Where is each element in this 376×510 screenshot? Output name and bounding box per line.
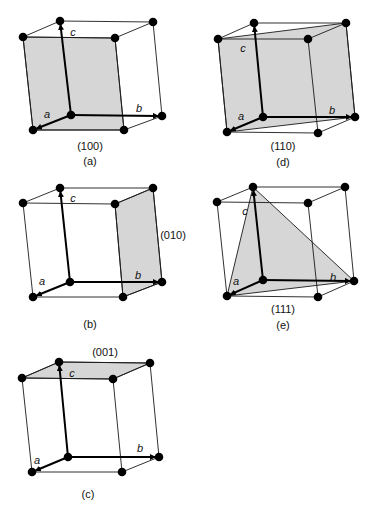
axis-label-a: a (39, 275, 45, 287)
plane-label: (001) (92, 346, 118, 358)
cube-edge (308, 187, 345, 203)
cube-edge (115, 22, 153, 38)
axis-b-arrow (71, 115, 158, 116)
atom-icon (213, 198, 222, 207)
panel-caption: (e) (276, 319, 289, 331)
panel-e: abc(111)(e) (213, 183, 359, 331)
atom-icon (223, 292, 232, 301)
plane-label: (111) (271, 303, 295, 315)
axis-c-arrow (60, 192, 70, 282)
atom-icon (111, 34, 120, 43)
atom-icon (249, 183, 258, 192)
panel-a: abc(100)(a) (19, 17, 167, 167)
axis-label-a: a (238, 110, 244, 122)
cube-edge (124, 116, 162, 130)
axis-label-b: b (330, 271, 336, 283)
atom-icon (56, 184, 65, 193)
atom-icon (56, 17, 65, 26)
atom-icon (158, 112, 167, 121)
atom-icon (149, 18, 158, 27)
cube-edge (23, 203, 33, 297)
cube-edge (217, 187, 253, 202)
axis-label-b: b (135, 269, 141, 281)
atom-icon (341, 183, 350, 192)
atom-icon (304, 199, 313, 208)
panel-caption: (a) (83, 155, 96, 167)
cube-edge (23, 21, 60, 37)
atom-icon (18, 374, 27, 383)
axis-label-c: c (70, 192, 76, 204)
cube-edge (345, 187, 354, 281)
cube-edge (23, 203, 115, 204)
atom-icon (304, 35, 313, 44)
atom-icon (118, 468, 127, 477)
atom-icon (149, 184, 158, 193)
plane-c-shading (22, 362, 150, 379)
atom-icon (214, 35, 223, 44)
panel-caption: (d) (276, 156, 289, 168)
plane-label: (010) (160, 229, 186, 241)
atom-icon (314, 293, 323, 302)
plane-label: (110) (271, 140, 296, 152)
atom-icon (29, 293, 38, 302)
cube-edge (60, 21, 153, 22)
panel-caption: (c) (82, 488, 95, 500)
axis-label-a: a (44, 108, 50, 120)
axis-label-c: c (70, 26, 76, 38)
atom-icon (109, 375, 118, 384)
axis-label-a: a (34, 454, 40, 466)
cube-edge (217, 202, 308, 203)
plane-label: (100) (77, 140, 103, 152)
atom-icon (120, 126, 129, 135)
atom-icon (250, 19, 259, 28)
atom-icon (146, 359, 155, 368)
atom-icon (119, 293, 128, 302)
axis-b-arrow (263, 280, 350, 281)
atom-icon (351, 113, 360, 122)
cube-edge (113, 379, 122, 472)
panel-d: abc(110)(d) (214, 19, 360, 168)
panel-c: abc(001)(c) (18, 346, 164, 500)
axis-label-a: a (233, 275, 239, 287)
cube-edge (23, 188, 60, 203)
panel-caption: (b) (83, 318, 96, 330)
atom-icon (64, 453, 73, 462)
axis-label-c: c (242, 205, 248, 217)
cube-edge (22, 378, 32, 472)
atom-icon (55, 358, 64, 367)
atom-icon (259, 276, 268, 285)
axis-label-b: b (137, 442, 143, 454)
atom-icon (155, 453, 164, 462)
cube-edge (227, 132, 318, 133)
atom-icon (350, 277, 359, 286)
cube-edge (150, 363, 159, 457)
atom-icon (223, 128, 232, 137)
atom-icon (28, 468, 37, 477)
atom-icon (29, 126, 38, 135)
cube-edge (227, 296, 318, 297)
atom-icon (259, 113, 268, 122)
atom-icon (158, 278, 167, 287)
axis-label-b: b (136, 102, 142, 114)
atom-icon (19, 199, 28, 208)
atom-icon (342, 19, 351, 28)
axis-label-b: b (329, 104, 335, 116)
atom-icon (19, 33, 28, 42)
axis-a-arrow (36, 457, 68, 470)
atom-icon (314, 129, 323, 138)
axis-label-c: c (69, 367, 75, 379)
atom-icon (66, 278, 75, 287)
atom-icon (111, 200, 120, 209)
cube-edge (153, 22, 162, 116)
axis-c-arrow (59, 366, 68, 457)
miller-indices-figure: abc(100)(a)abc(110)(d)abc(010)(b)abc(111… (0, 0, 376, 510)
cube-edge (217, 202, 227, 296)
atom-icon (67, 111, 76, 120)
axis-label-c: c (240, 42, 246, 54)
panel-b: abc(010)(b) (19, 184, 186, 330)
cube-edge (122, 457, 159, 472)
